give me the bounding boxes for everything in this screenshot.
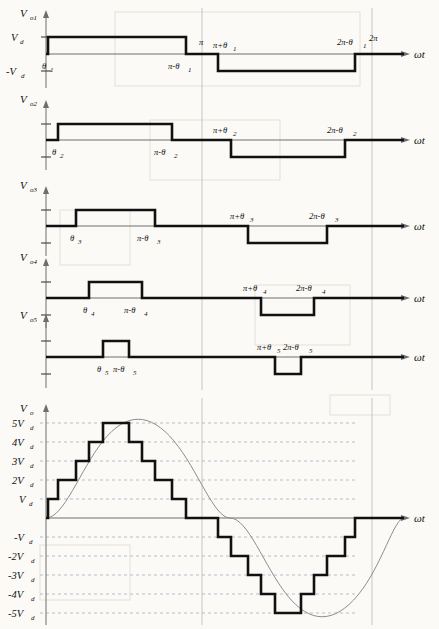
vo4-axis-label: V bbox=[20, 251, 28, 263]
vo4-2pi-minus-theta-label: 2π-θ bbox=[296, 283, 312, 293]
vo5-omega-t-label: ωt bbox=[414, 351, 426, 363]
level-neg2vd-label: -2V bbox=[8, 551, 25, 562]
level-neg1vd-sub: d bbox=[29, 538, 33, 546]
vo4-omega-t-label: ωt bbox=[414, 292, 426, 304]
vo1-axis-sublabel: o1 bbox=[30, 14, 37, 22]
vo1-axis-label: V bbox=[20, 7, 28, 19]
vo2-pi-minus-theta-label: π-θ bbox=[154, 147, 166, 157]
vo5-theta-sub: 5 bbox=[105, 369, 109, 377]
level-2vd-label: 2V bbox=[12, 475, 25, 486]
vo3-pi-minus-theta-label: π-θ bbox=[137, 233, 149, 243]
vo1-theta-sub: 1 bbox=[50, 66, 54, 74]
vo2-axis-sublabel: o2 bbox=[30, 100, 38, 108]
vo2-theta-label: θ bbox=[52, 147, 57, 157]
vo1-pi-minus-theta-label: π-θ bbox=[168, 61, 180, 71]
panel-vo5: V o5 θ 5 π-θ 5 π+θ 5 2π-θ 5 ωt bbox=[20, 309, 426, 388]
panel-vo2: V o2 θ 2 π-θ 2 π+θ 2 2π-θ 2 ωt bbox=[20, 93, 426, 170]
vo1-pi-minus-theta-sub: 1 bbox=[188, 66, 192, 74]
vo1-2pi-label: 2π bbox=[369, 33, 378, 43]
vo3-omega-t-label: ωt bbox=[414, 220, 426, 232]
panel-vo1: V o1 V d -V d θ 1 π-θ 1 π π+θ 1 2π-θ 1 2… bbox=[6, 7, 426, 88]
level-neg5vd-sub: d bbox=[31, 614, 35, 622]
vo3-theta-sub: 3 bbox=[77, 238, 82, 246]
vo5-pi-minus-theta-sub: 5 bbox=[133, 369, 137, 377]
vo2-pi-plus-theta-label: π+θ bbox=[213, 125, 228, 135]
vo5-theta-label: θ bbox=[97, 364, 102, 374]
vo2-2pi-minus-theta-sub: 2 bbox=[353, 130, 357, 138]
vo1-level-pos-sub: d bbox=[20, 38, 24, 46]
panel-vo3: V o3 θ 3 π-θ 3 π+θ 3 2π-θ 3 ωt bbox=[20, 179, 426, 256]
vo2-2pi-minus-theta-label: 2π-θ bbox=[327, 125, 343, 135]
vo4-theta-sub: 4 bbox=[91, 310, 95, 318]
vo3-pi-plus-theta-sub: 3 bbox=[249, 216, 254, 224]
level-neg5vd-label: -5V bbox=[8, 608, 25, 619]
vo1-level-neg-sub: d bbox=[21, 72, 25, 80]
figure-canvas: V o1 V d -V d θ 1 π-θ 1 π π+θ 1 2π-θ 1 2… bbox=[0, 0, 439, 629]
vo3-2pi-minus-theta-sub: 3 bbox=[334, 216, 339, 224]
vertical-guides bbox=[202, 8, 372, 625]
vo2-y-arrow bbox=[43, 100, 49, 108]
vo5-pi-plus-theta-sub: 5 bbox=[277, 347, 281, 355]
vo4-axis-sublabel: o4 bbox=[30, 258, 38, 266]
vo-y-arrow bbox=[43, 404, 49, 412]
vo1-level-pos-label: V bbox=[11, 32, 19, 43]
vo1-pi-plus-theta-sub: 1 bbox=[233, 45, 237, 53]
vo3-2pi-minus-theta-label: 2π-θ bbox=[309, 211, 325, 221]
panel-vo4: V o4 θ 4 π-θ 4 π+θ 4 2π-θ 4 ωt bbox=[20, 251, 426, 328]
vo5-2pi-minus-theta-label: 2π-θ bbox=[283, 342, 299, 352]
vo5-axis-label: V bbox=[20, 309, 28, 321]
level-neg4vd-label: -4V bbox=[8, 589, 25, 600]
vo1-pi-label: π bbox=[199, 37, 204, 47]
vo5-2pi-minus-theta-sub: 5 bbox=[309, 347, 313, 355]
vo-omega-t-label: ωt bbox=[414, 512, 426, 524]
vo2-axis-label: V bbox=[20, 93, 28, 105]
level-5vd-label: 5V bbox=[12, 418, 25, 429]
vo4-y-arrow bbox=[43, 258, 49, 266]
vo1-y-arrow bbox=[43, 10, 49, 18]
level-2vd-sub: d bbox=[30, 481, 34, 489]
vo4-theta-label: θ bbox=[83, 305, 88, 315]
level-1vd-sub: d bbox=[29, 500, 33, 508]
vo4-pi-plus-theta-sub: 4 bbox=[263, 288, 267, 296]
waveform-diagram: V o1 V d -V d θ 1 π-θ 1 π π+θ 1 2π-θ 1 2… bbox=[0, 0, 439, 629]
vo-axis-sublabel: o bbox=[30, 409, 34, 417]
level-1vd-label: V bbox=[19, 494, 27, 505]
vo1-2pi-minus-theta-label: 2π-θ bbox=[337, 37, 353, 47]
level-5vd-sub: d bbox=[30, 424, 34, 432]
vo3-pi-plus-theta-label: π+θ bbox=[230, 211, 245, 221]
vo1-pi-plus-theta-label: π+θ bbox=[213, 40, 228, 50]
vo3-theta-label: θ bbox=[70, 233, 75, 243]
vo4-pi-minus-theta-label: π-θ bbox=[124, 305, 136, 315]
level-neg3vd-sub: d bbox=[31, 576, 35, 584]
level-4vd-label: 4V bbox=[12, 437, 25, 448]
vo4-pi-minus-theta-sub: 4 bbox=[144, 310, 148, 318]
vo5-pi-minus-theta-label: π-θ bbox=[113, 364, 125, 374]
vo-axis-label: V bbox=[20, 402, 28, 414]
level-neg3vd-label: -3V bbox=[8, 570, 25, 581]
vo4-pi-plus-theta-label: π+θ bbox=[243, 283, 258, 293]
vo2-pi-plus-theta-sub: 2 bbox=[233, 130, 237, 138]
vo1-2pi-minus-theta-sub: 1 bbox=[363, 42, 367, 50]
vo5-axis-sublabel: o5 bbox=[30, 316, 38, 324]
vo4-2pi-minus-theta-sub: 4 bbox=[322, 288, 326, 296]
vo1-level-neg-label: -V bbox=[6, 66, 17, 77]
vo3-axis-sublabel: o3 bbox=[30, 186, 38, 194]
level-neg1vd-label: -V bbox=[14, 532, 25, 543]
vo3-axis-label: V bbox=[20, 179, 28, 191]
panel-vo-summary: V o 5V d 4V d 3V d 2V d V d -V d -2V d -… bbox=[8, 402, 426, 625]
level-neg4vd-sub: d bbox=[31, 595, 35, 603]
vo2-pi-minus-theta-sub: 2 bbox=[174, 152, 178, 160]
vo2-omega-t-label: ωt bbox=[414, 134, 426, 146]
vo5-pi-plus-theta-label: π+θ bbox=[257, 342, 272, 352]
level-neg2vd-sub: d bbox=[31, 557, 35, 565]
level-3vd-label: 3V bbox=[11, 456, 25, 467]
vo1-omega-t-label: ωt bbox=[414, 48, 426, 60]
page-ghost-marks bbox=[40, 12, 390, 600]
vo3-pi-minus-theta-sub: 3 bbox=[156, 238, 161, 246]
vo2-theta-sub: 2 bbox=[60, 152, 64, 160]
level-3vd-sub: d bbox=[30, 462, 34, 470]
vo3-y-arrow bbox=[43, 186, 49, 194]
level-4vd-sub: d bbox=[30, 443, 34, 451]
